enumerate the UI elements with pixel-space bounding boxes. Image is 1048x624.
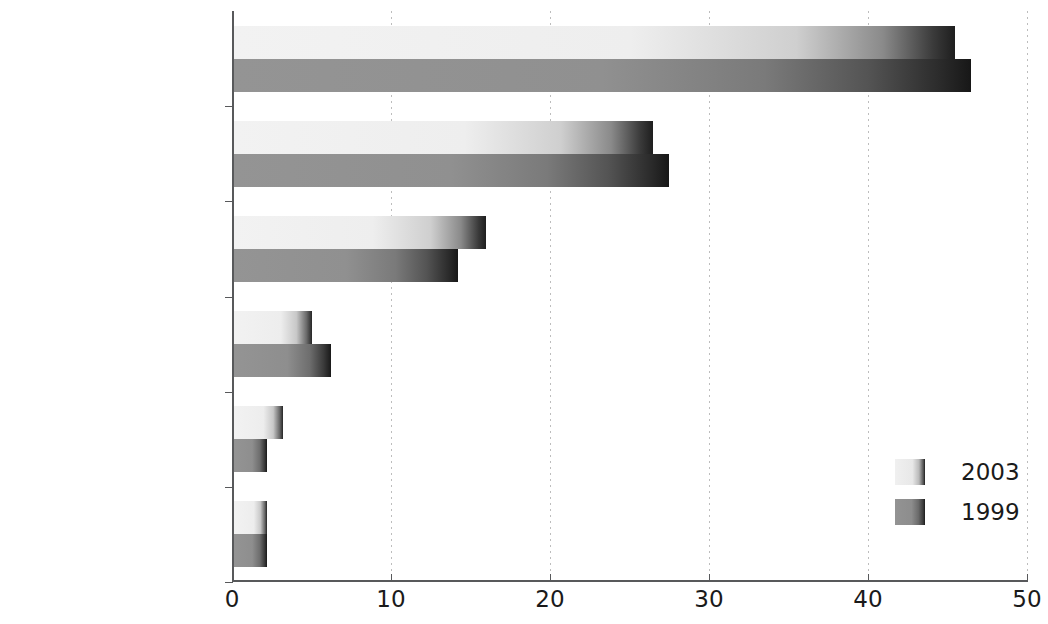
x-tick-label-40: 40: [853, 586, 882, 612]
x-tick-0: [232, 574, 233, 582]
x-tick-label-30: 30: [694, 586, 723, 612]
y-tick-4: [225, 487, 233, 488]
x-tick-label-20: 20: [535, 586, 564, 612]
x-axis-line: [232, 580, 1027, 582]
legend-swatch-icon-2003: [895, 459, 925, 485]
x-tick-40: [868, 574, 869, 582]
gridline-50: [1027, 11, 1028, 582]
bar-1999-2: [234, 249, 458, 282]
x-tick-label-10: 10: [376, 586, 405, 612]
bar-2003-4: [234, 406, 283, 439]
y-tick-1: [225, 201, 233, 202]
bar-chart: Machinery and vehiclesOther manufactured…: [0, 0, 1048, 624]
bar-2003-5: [234, 501, 267, 534]
y-tick-5: [225, 582, 233, 583]
y-tick-0: [225, 106, 233, 107]
legend-item-1999: 1999: [895, 492, 1020, 532]
gridline-10: [391, 11, 392, 582]
x-tick-20: [550, 574, 551, 582]
bar-1999-0: [234, 59, 971, 92]
bar-2003-3: [234, 311, 312, 344]
bar-1999-3: [234, 344, 331, 377]
bar-2003-1: [234, 121, 653, 154]
y-tick-3: [225, 392, 233, 393]
gridline-40: [868, 11, 869, 582]
x-tick-label-0: 0: [225, 586, 240, 612]
x-tick-10: [391, 574, 392, 582]
bar-1999-1: [234, 154, 669, 187]
legend-swatch-icon-1999: [895, 499, 925, 525]
legend-item-2003: 2003: [895, 452, 1020, 492]
y-tick-2: [225, 297, 233, 298]
x-tick-label-50: 50: [1012, 586, 1041, 612]
bar-1999-4: [234, 439, 267, 472]
gridline-30: [709, 11, 710, 582]
x-tick-50: [1027, 574, 1028, 582]
x-tick-30: [709, 574, 710, 582]
legend: 2003 1999: [895, 452, 1020, 532]
bar-2003-2: [234, 216, 486, 249]
gridline-20: [550, 11, 551, 582]
bar-2003-0: [234, 26, 955, 59]
legend-label-1999: 1999: [961, 499, 1020, 525]
legend-label-2003: 2003: [961, 459, 1020, 485]
bar-1999-5: [234, 534, 267, 567]
